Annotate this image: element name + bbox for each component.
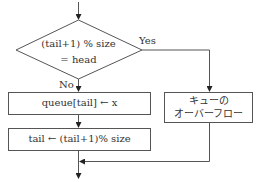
overflow-label-line1: キューの (164, 95, 253, 107)
advance-tail-label: tail ← (tail+1)% size (8, 133, 151, 145)
flowchart-canvas (0, 0, 259, 182)
enqueue-label: queue[tail] ← x (8, 97, 151, 109)
yes-label: Yes (139, 35, 156, 47)
no-label: No (59, 79, 74, 91)
overflow-label-line2: オーバーフロー (164, 108, 253, 120)
decision-condition-line1: (tail+1) % size (30, 38, 127, 50)
yes-path (142, 50, 210, 91)
decision-condition-line2: = head (30, 54, 127, 66)
